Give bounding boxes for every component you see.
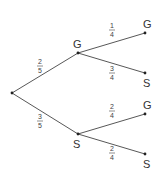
denominator: 5 [38, 67, 42, 74]
numerator: 1 [110, 22, 114, 29]
node-label-G: G [73, 38, 82, 50]
root-node [11, 92, 14, 95]
edge-root-G [12, 53, 78, 93]
leaf-node-S-G [144, 113, 147, 116]
numerator: 3 [110, 65, 114, 72]
leaf-label-S-S: S [143, 158, 150, 170]
numerator: 3 [38, 113, 42, 120]
denominator: 4 [110, 31, 114, 38]
leaf-node-G-S [144, 72, 147, 75]
tree-nodes [11, 32, 147, 156]
node-label-S: S [73, 138, 80, 150]
denominator: 4 [110, 74, 114, 81]
probability-root-G: 25 [37, 58, 43, 74]
leaf-node-G-G [144, 32, 147, 35]
tree-edges [12, 33, 145, 154]
leaf-label-S-G: G [143, 99, 152, 111]
leaf-label-G-G: G [143, 18, 152, 30]
numerator: 2 [38, 58, 42, 65]
leaf-label-G-S: S [143, 77, 150, 89]
leaf-node-S-S [144, 153, 147, 156]
denominator: 4 [110, 112, 114, 119]
denominator: 4 [110, 154, 114, 161]
probability-S-G: 24 [109, 103, 115, 119]
denominator: 5 [38, 122, 42, 129]
numerator: 2 [110, 103, 114, 110]
node-S [77, 133, 80, 136]
probability-root-S: 35 [37, 113, 43, 129]
numerator: 2 [110, 145, 114, 152]
probability-G-S: 34 [109, 65, 115, 81]
probability-G-G: 14 [109, 22, 115, 38]
probability-S-S: 24 [109, 145, 115, 161]
probability-tree-diagram: GSGSGS 253514342424 [0, 0, 163, 182]
node-G [77, 52, 80, 55]
edge-root-S [12, 93, 78, 134]
